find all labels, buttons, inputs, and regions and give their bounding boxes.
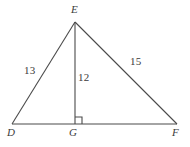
vertex-label-d: D <box>7 127 15 138</box>
side-length-ef: 15 <box>130 56 141 67</box>
side-length-de: 13 <box>24 65 35 76</box>
right-angle-marker-icon <box>75 117 82 124</box>
vertex-label-g: G <box>69 127 77 138</box>
side-de-line <box>12 22 75 124</box>
side-ef-line <box>75 22 177 124</box>
geometry-figure: E D G F 13 12 15 <box>0 0 190 147</box>
vertex-label-f: F <box>172 127 179 138</box>
side-length-eg: 12 <box>78 72 89 83</box>
vertex-label-e: E <box>71 4 78 15</box>
